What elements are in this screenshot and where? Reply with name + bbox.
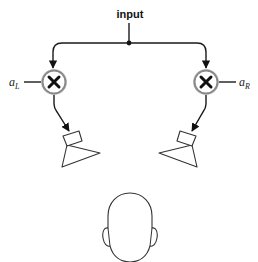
left-multiplier-node [41,69,67,95]
panning-diagram: input aL [0,0,258,262]
right-multiplier-node [193,69,219,95]
right-output-wire [192,95,206,131]
right-speaker-icon [159,131,197,167]
diagram-svg: input aL [0,0,258,262]
left-gain-label: aL [9,75,20,91]
left-speaker-icon [62,131,100,167]
right-branch-wire [129,43,206,68]
left-branch-wire [53,43,129,68]
left-output-wire [54,95,69,131]
right-gain-label: aR [239,75,250,91]
input-label: input [117,8,144,20]
listener-head-icon [103,193,158,262]
